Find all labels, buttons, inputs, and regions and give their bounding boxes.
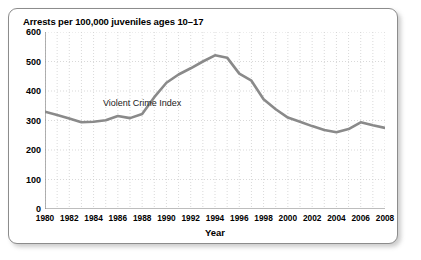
x-tick-label: 1984	[84, 213, 102, 223]
x-tick-label: 1982	[60, 213, 78, 223]
x-axis-tick-labels: 1980198219841986198819901992199419961998…	[45, 213, 385, 227]
x-tick-label: 1988	[133, 213, 151, 223]
line-chart-svg	[45, 32, 385, 209]
x-tick-label: 1990	[157, 213, 175, 223]
x-tick-label: 1994	[206, 213, 224, 223]
x-tick-label: 2004	[327, 213, 345, 223]
y-axis-tick-labels: 6005004003002001000	[17, 32, 41, 209]
series-annotation-label: Violent Crime Index	[103, 98, 181, 108]
x-tick-label: 2002	[303, 213, 321, 223]
x-tick-label: 1980	[36, 213, 54, 223]
x-tick-label: 1992	[181, 213, 199, 223]
y-tick-label: 500	[26, 57, 41, 67]
x-tick-label: 1986	[109, 213, 127, 223]
y-tick-label: 400	[26, 86, 41, 96]
y-tick-label: 300	[26, 116, 41, 126]
x-tick-label: 2006	[351, 213, 369, 223]
chart-title: Arrests per 100,000 juveniles ages 10–17	[23, 16, 203, 27]
x-axis-title: Year	[45, 227, 385, 238]
x-tick-label: 2000	[279, 213, 297, 223]
y-tick-label: 200	[26, 145, 41, 155]
y-tick-label: 600	[26, 27, 41, 37]
y-tick-label: 100	[26, 175, 41, 185]
x-tick-label: 1998	[254, 213, 272, 223]
x-tick-label: 2008	[376, 213, 394, 223]
x-tick-label: 1996	[230, 213, 248, 223]
plot-area: Violent Crime Index	[45, 32, 385, 209]
chart-card: Arrests per 100,000 juveniles ages 10–17…	[8, 8, 398, 244]
